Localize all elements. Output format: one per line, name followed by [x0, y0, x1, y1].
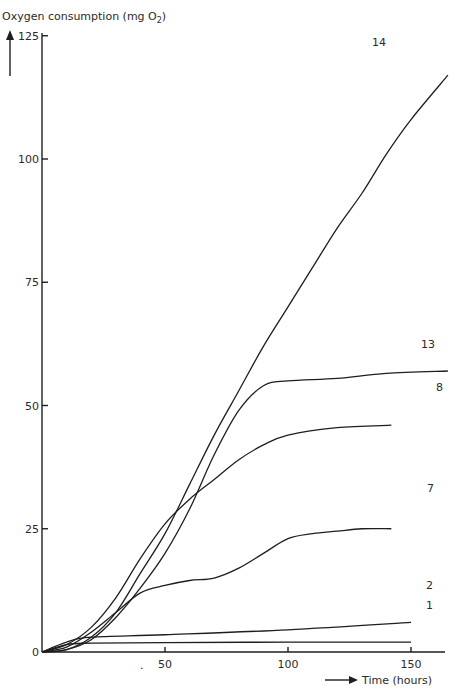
- curve-label-7: 7: [427, 482, 434, 495]
- x-tick-label: 150: [401, 658, 422, 671]
- curve-7: [42, 529, 391, 652]
- curve-8: [42, 425, 391, 652]
- curve-label-14: 14: [372, 36, 386, 49]
- curve-label-8: 8: [436, 381, 443, 394]
- y-tick-label: 0: [32, 646, 39, 659]
- curve-label-13: 13: [421, 338, 435, 351]
- curve-labels: 14138721: [372, 36, 443, 612]
- stray-dot-annotation: .: [140, 659, 144, 672]
- data-curves: [42, 75, 448, 652]
- oxygen-consumption-chart: Oxygen consumption (mg O2) 0255075100125…: [0, 0, 455, 693]
- curve-1: [42, 642, 411, 652]
- y-tick-label: 50: [25, 400, 39, 413]
- curve-label-2: 2: [426, 579, 433, 592]
- y-tick-label: 100: [18, 153, 39, 166]
- x-arrow-icon: [325, 676, 358, 684]
- y-tick-label: 125: [18, 30, 39, 43]
- y-axis-title: Oxygen consumption (mg O2): [2, 10, 166, 25]
- curve-label-1: 1: [426, 599, 433, 612]
- x-tick-label: 100: [278, 658, 299, 671]
- y-arrow-icon: [6, 30, 14, 76]
- y-ticks: 0255075100125: [18, 30, 48, 659]
- y-tick-label: 25: [25, 523, 39, 536]
- x-axis-title: Time (hours): [361, 674, 432, 687]
- x-tick-label: 50: [158, 658, 172, 671]
- x-ticks: 50100150: [158, 647, 422, 671]
- curve-13: [42, 371, 448, 652]
- y-tick-label: 75: [25, 276, 39, 289]
